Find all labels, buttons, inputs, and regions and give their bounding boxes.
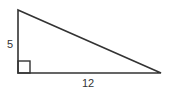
right-angle-marker [18,61,30,73]
horizontal-leg-label: 12 [82,77,94,89]
triangle-diagram: 5 12 [0,0,171,93]
right-triangle [18,10,161,73]
vertical-leg-label: 5 [7,38,13,50]
